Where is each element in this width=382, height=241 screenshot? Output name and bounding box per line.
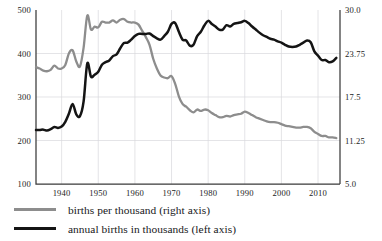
series-line-births-per-thousand — [36, 15, 336, 138]
x-axis-tick-label: 1990 — [236, 188, 254, 198]
x-axis-tick-label: 1980 — [199, 188, 217, 198]
left-axis-tick-label: 400 — [18, 49, 32, 59]
left-axis-tick-label: 100 — [18, 179, 32, 189]
chart-legend: births per thousand (right axis) annual … — [0, 200, 382, 238]
series-line-annual-births — [36, 21, 336, 131]
legend-label-annual-births: annual births in thousands (left axis) — [68, 223, 236, 235]
right-axis-tick-label: 30.0 — [345, 5, 361, 15]
x-axis-tick-label: 2010 — [309, 188, 327, 198]
x-axis-tick-label: 1950 — [89, 188, 107, 198]
legend-swatch-black-line-icon — [14, 227, 56, 230]
right-axis-tick-label: 5.0 — [345, 179, 356, 189]
left-axis-tick-label: 200 — [18, 136, 32, 146]
left-axis-tick-label: 500 — [18, 5, 32, 15]
x-axis-tick-label: 1970 — [163, 188, 181, 198]
left-axis-tick-label: 300 — [18, 92, 32, 102]
chart-plot-svg: 1002003004005005.011.2517.523.7530.01940… — [0, 0, 382, 200]
legend-item-births-per-thousand: births per thousand (right axis) — [0, 200, 382, 219]
right-axis-tick-label: 17.5 — [345, 92, 361, 102]
legend-item-annual-births: annual births in thousands (left axis) — [0, 219, 382, 238]
legend-label-births-per-thousand: births per thousand (right axis) — [68, 204, 210, 216]
right-axis-tick-label: 23.75 — [345, 49, 365, 59]
x-axis-tick-label: 2000 — [272, 188, 290, 198]
x-axis-tick-label: 1960 — [126, 188, 144, 198]
x-axis-tick-label: 1940 — [53, 188, 71, 198]
right-axis-tick-label: 11.25 — [345, 136, 365, 146]
legend-swatch-gray-line-icon — [14, 208, 56, 211]
